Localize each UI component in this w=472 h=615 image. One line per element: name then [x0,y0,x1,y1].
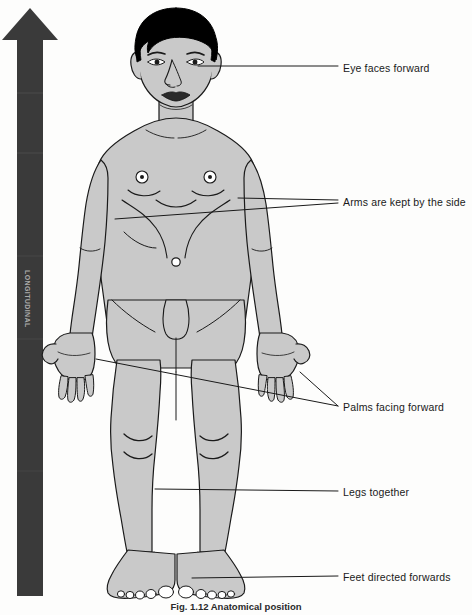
right-hand-palm [257,333,299,381]
left-nipple [140,175,144,179]
label-feet-directed-forwards: Feet directed forwards [343,571,451,583]
right-toe-4 [218,591,226,598]
left-toe-3 [136,591,145,599]
label-eye-faces-forward: Eye faces forward [343,62,430,74]
right-toe-3 [208,591,217,599]
right-finger-4 [258,375,267,396]
left-finger-3 [77,378,85,401]
right-toe-big [179,586,194,598]
right-leg [191,360,241,552]
left-finger-4 [85,375,94,396]
left-toe-4 [126,591,134,598]
hair-sideburn-right [211,44,216,62]
right-thumb [294,344,310,364]
figure-canvas [0,0,472,615]
right-arm [244,160,282,338]
hair-sideburn-left [136,44,141,62]
left-toe-5 [117,591,124,597]
right-toe-5 [227,591,234,597]
left-toe-big [159,586,174,598]
left-arm [70,160,108,338]
figure-caption: Fig. 1.12 Anatomical position [0,601,472,615]
anatomical-position-figure: Eye faces forward Arms are kept by the s… [0,0,472,615]
left-hand-palm [53,333,95,381]
label-palms-facing-forward: Palms facing forward [343,401,444,413]
groin-outline [163,300,189,339]
right-finger-3 [267,378,275,401]
left-finger-2 [68,378,76,402]
arrow-axis-label: LONGITUDINAL [20,270,34,340]
left-leg [111,360,161,552]
left-finger-1 [59,376,68,399]
right-finger-2 [276,378,284,402]
right-nipple [208,175,212,179]
leader-line-legs [155,489,338,491]
navel [172,258,180,266]
right-toe-2 [196,590,206,599]
torso [94,118,259,330]
label-arms-are-kept-by-the-side: Arms are kept by the side [343,196,466,208]
left-thumb [42,344,58,364]
label-legs-together: Legs together [343,486,409,498]
human-body-figure [42,8,310,599]
left-pupil [155,59,160,64]
right-pupil [193,59,198,64]
leader-line-palms-right [300,372,338,406]
left-toe-2 [146,590,156,599]
